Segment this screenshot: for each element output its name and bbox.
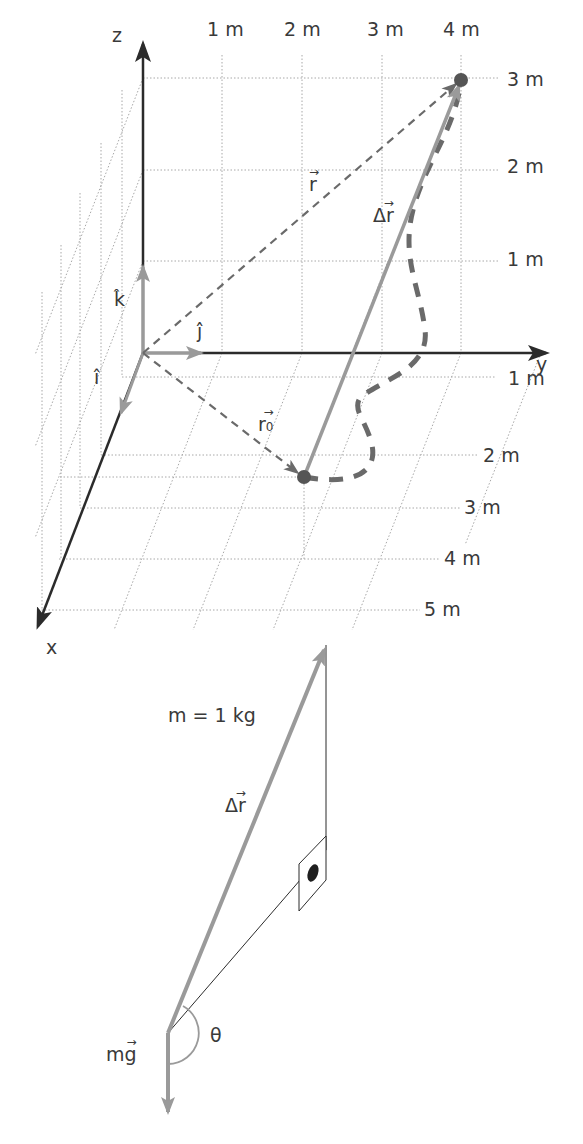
r-label: → r: [309, 175, 317, 194]
j-hat-label: ĵ: [197, 322, 202, 341]
delta-r-lower-label: → Δr: [225, 796, 246, 815]
k-hat-label: k̂: [114, 290, 125, 309]
x-tick-1: 1 m: [508, 369, 545, 388]
x-tick-5: 5 m: [424, 600, 461, 619]
theta-label: θ: [210, 1026, 222, 1045]
mg-label: → mg: [106, 1045, 137, 1064]
z-tick-3: 3 m: [507, 70, 544, 89]
r0-label: → r0: [258, 415, 273, 434]
y-tick-2: 2 m: [284, 20, 321, 39]
end-point: [454, 73, 468, 87]
axes: [38, 44, 546, 626]
y-tick-4: 4 m: [443, 20, 480, 39]
z-axis-label: z: [112, 26, 122, 45]
z-tick-1: 1 m: [507, 250, 544, 269]
y-tick-3: 3 m: [367, 20, 404, 39]
unit-vectors: [121, 267, 201, 413]
delta-r-label: → Δr: [373, 206, 394, 225]
x-tick-4: 4 m: [444, 549, 481, 568]
y-tick-1: 1 m: [207, 20, 244, 39]
vector-diagram-canvas: [0, 0, 583, 1144]
mass-label: m = 1 kg: [168, 706, 256, 725]
x-axis-label: x: [46, 638, 57, 657]
i-hat-vector: [121, 353, 143, 413]
i-hat-label: î: [94, 368, 99, 387]
z-tick-2: 2 m: [507, 157, 544, 176]
start-point: [297, 470, 311, 484]
x-tick-2: 2 m: [483, 446, 520, 465]
x-tick-3: 3 m: [464, 498, 501, 517]
grid: [35, 55, 541, 630]
